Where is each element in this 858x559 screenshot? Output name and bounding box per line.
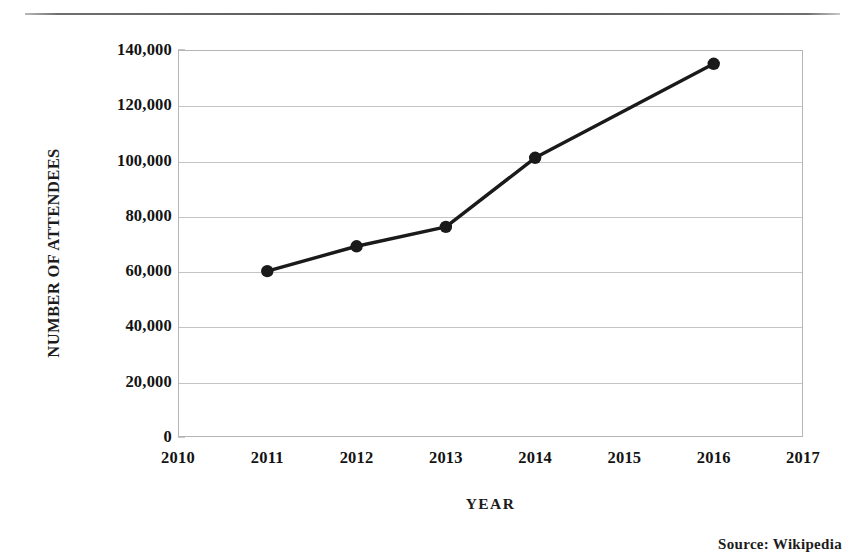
x-axis-tick-group: 20102011201220132014201520162017 — [178, 448, 803, 474]
x-axis-tick-label: 2010 — [133, 448, 223, 468]
series-marker-group — [261, 58, 720, 278]
x-axis-tick-label: 2016 — [669, 448, 759, 468]
data-point-marker — [529, 152, 541, 164]
x-axis-tick-label: 2012 — [312, 448, 402, 468]
data-point-marker — [708, 58, 720, 70]
data-point-marker — [440, 221, 452, 233]
x-axis-tick-label: 2017 — [758, 448, 848, 468]
source-attribution: Source: Wikipedia — [718, 536, 842, 553]
x-axis-tick-label: 2015 — [579, 448, 669, 468]
data-series-layer — [0, 0, 858, 559]
x-axis-title: YEAR — [178, 495, 803, 513]
x-axis-tick-label: 2014 — [490, 448, 580, 468]
series-line-number-of-attendees — [267, 64, 713, 271]
x-axis-tick-label: 2011 — [222, 448, 312, 468]
data-point-marker — [350, 240, 362, 252]
x-axis-tick-label: 2013 — [401, 448, 491, 468]
data-point-marker — [261, 265, 273, 277]
line-chart-figure: NUMBER OF ATTENDEES 140,000120,000100,00… — [0, 0, 858, 559]
